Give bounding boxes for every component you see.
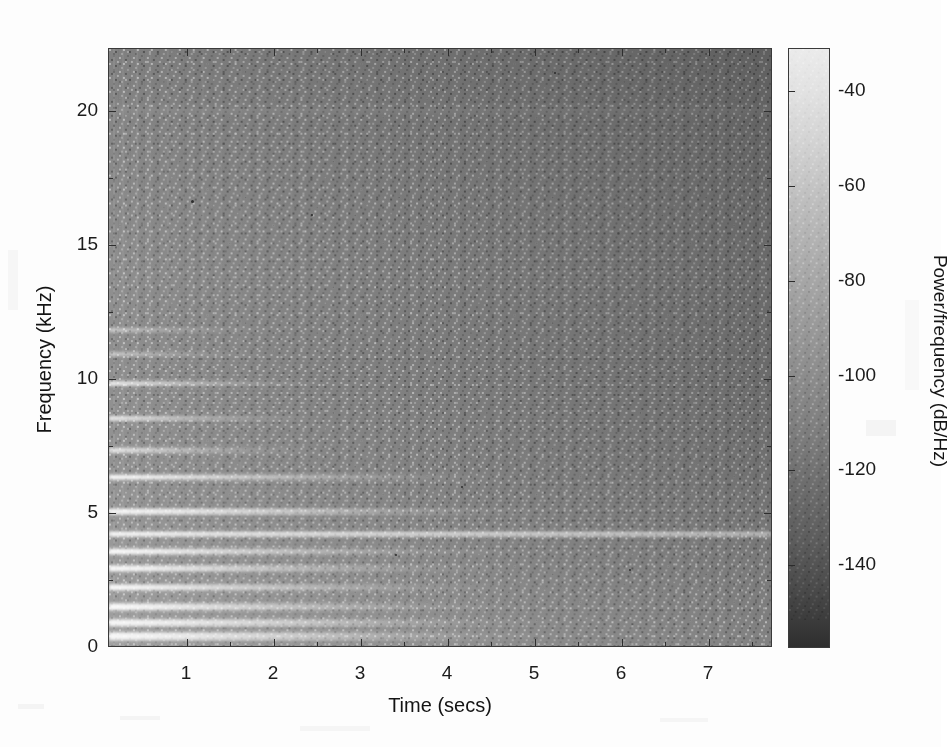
artifact-speck [311,214,313,216]
colorbar-tick-label: -140 [838,553,876,575]
colorbar-tick-label: -40 [838,79,865,101]
x-axis-title: Time (secs) [108,694,772,717]
y-axis-title: Frequency (kHz) [33,230,56,490]
x-tick-label: 6 [601,662,641,684]
spectrogram-plot-area[interactable] [108,48,772,647]
x-tick-label: 4 [427,662,467,684]
colorbar-grain [789,49,829,620]
spectrogram-image [109,49,771,646]
y-tick-label: 10 [52,367,98,389]
colorbar-tick-label: -100 [838,364,876,386]
artifact-speck [191,200,194,203]
x-tick-label: 2 [253,662,293,684]
y-tick-label: 5 [52,501,98,523]
y-tick-label: 20 [52,99,98,121]
y-tick-label: 15 [52,233,98,255]
artifact-speck [461,486,463,488]
colorbar-tick-label: -80 [838,269,865,291]
artifact-speck [629,569,631,571]
y-tick-label: 0 [52,635,98,657]
artifact-speck [395,554,397,556]
x-tick-label: 3 [340,662,380,684]
x-tick-label: 7 [688,662,728,684]
colorbar-tick-label: -60 [838,174,865,196]
colorbar-tick-label: -120 [838,458,876,480]
colorbar[interactable] [788,48,830,648]
noise-grain-layer [109,49,771,647]
artifact-speck [554,72,556,74]
x-tick-label: 5 [514,662,554,684]
x-tick-label: 1 [166,662,206,684]
colorbar-title: Power/frequency (dB/Hz) [929,211,951,511]
